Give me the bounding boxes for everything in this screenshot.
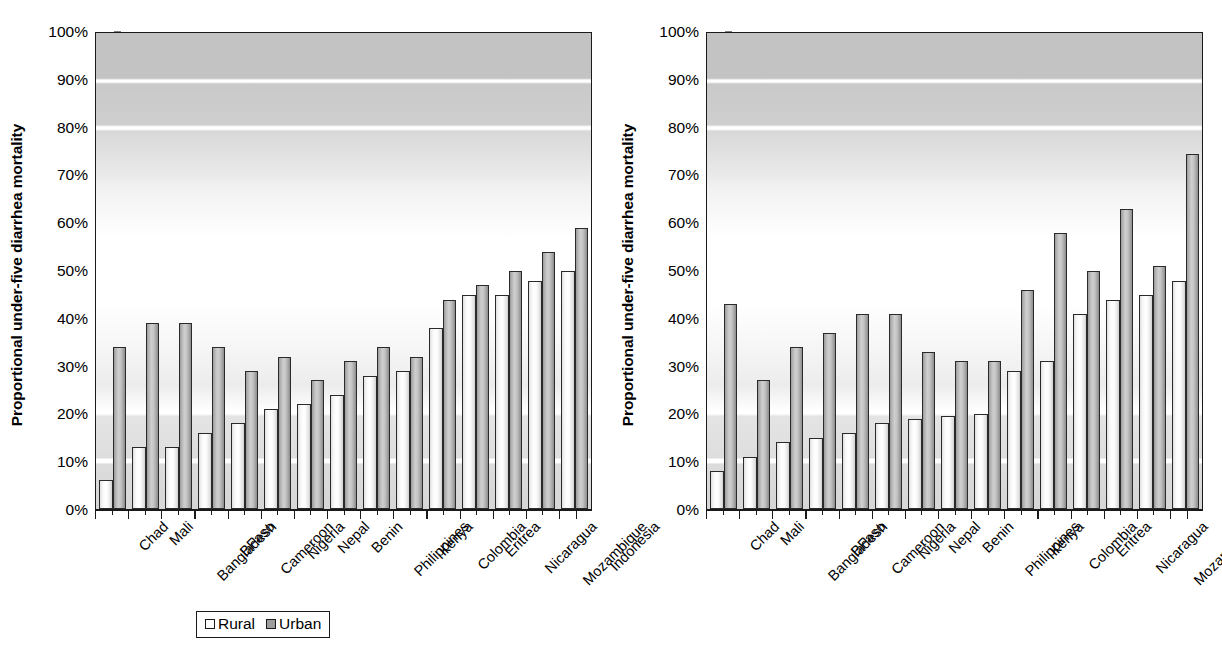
bar	[988, 361, 1002, 509]
bar	[908, 419, 922, 509]
x-axis-tick-mark	[805, 510, 838, 519]
bar-group	[195, 33, 228, 509]
x-axis-tick-mark	[1104, 510, 1137, 519]
x-axis-tick-mark	[95, 510, 128, 519]
bar	[528, 281, 542, 509]
y-axis-tick-label: 90%	[57, 72, 88, 88]
y-axis-tick-label: 80%	[668, 120, 699, 136]
bar-group	[393, 33, 426, 509]
bar	[776, 442, 790, 509]
y-axis-tick-label: 80%	[57, 120, 88, 136]
bar	[724, 304, 738, 509]
bar	[476, 285, 490, 509]
bar-group	[839, 33, 872, 509]
y-axis-tick-label: 50%	[668, 263, 699, 279]
x-axis-tick-label: Benin	[979, 519, 1015, 555]
bar	[1186, 154, 1200, 509]
y-axis-tick-label: 60%	[668, 215, 699, 231]
x-axis-tick-mark	[161, 510, 194, 519]
chart-panel-left: Proportional under-five diarrhea mortali…	[0, 0, 611, 672]
bar	[264, 409, 278, 509]
bar	[561, 271, 575, 509]
x-axis-tick-mark	[706, 510, 739, 519]
y-axis-tick-label: 60%	[57, 215, 88, 231]
y-axis-tick-label: 70%	[668, 168, 699, 184]
plot-area	[95, 32, 592, 510]
y-axis-tick-label: 70%	[57, 168, 88, 184]
bar	[809, 438, 823, 509]
bar-group	[294, 33, 327, 509]
legend-item: Urban	[266, 616, 321, 632]
x-axis-tick-mark	[228, 510, 261, 519]
plot-area	[706, 32, 1203, 510]
y-axis-tick-label: 10%	[57, 454, 88, 470]
x-axis-tick-mark	[839, 510, 872, 519]
bar-group	[492, 33, 525, 509]
bar	[1172, 281, 1186, 509]
bar-group	[1136, 33, 1169, 509]
bar-group	[1004, 33, 1037, 509]
bar	[1087, 271, 1101, 509]
x-axis-tick-mark	[393, 510, 426, 519]
bar	[330, 395, 344, 509]
x-axis-tick-mark	[1004, 510, 1037, 519]
x-axis-tick-mark	[360, 510, 393, 519]
x-axis-tick-mark	[194, 510, 227, 519]
bar	[710, 471, 724, 509]
x-axis-tick-mark	[294, 510, 327, 519]
x-axis-tick-label: BFaso	[237, 519, 277, 559]
bar	[509, 271, 523, 509]
bar	[146, 323, 160, 509]
x-axis-tick-label: Benin	[368, 519, 404, 555]
bar-group	[938, 33, 971, 509]
bar-groups	[707, 33, 1202, 509]
bar	[1007, 371, 1021, 509]
bar-group	[261, 33, 294, 509]
bar	[1073, 314, 1087, 509]
y-axis-tick-label: 40%	[668, 311, 699, 327]
y-axis-tick-label: 100%	[659, 24, 699, 40]
bar	[179, 323, 193, 509]
bar	[495, 295, 509, 509]
y-axis-tick-labels: 100%90%80%70%60%50%40%30%20%10%0%	[637, 32, 699, 510]
bar	[344, 361, 358, 509]
bar-group	[558, 33, 591, 509]
bar-group	[806, 33, 839, 509]
bar	[1021, 290, 1035, 509]
bar-group	[459, 33, 492, 509]
bar	[1153, 266, 1167, 509]
bar	[743, 457, 757, 509]
y-axis-tick-label: 30%	[668, 359, 699, 375]
bar	[410, 357, 424, 509]
bar	[1040, 361, 1054, 509]
bar	[297, 404, 311, 509]
bar-group	[327, 33, 360, 509]
y-axis-tick-label: 50%	[57, 263, 88, 279]
bar	[1106, 300, 1120, 509]
x-axis-tick-mark	[772, 510, 805, 519]
bar-group	[525, 33, 558, 509]
y-axis-tick-label: 90%	[668, 72, 699, 88]
legend-label: Rural	[218, 616, 255, 632]
bar	[875, 423, 889, 509]
y-axis-tick-label: 100%	[48, 24, 88, 40]
bar-group	[360, 33, 393, 509]
bar	[1054, 233, 1068, 509]
bar	[132, 447, 146, 509]
x-axis-tick-label: Mali	[777, 519, 806, 548]
bar	[1139, 295, 1153, 509]
bar	[231, 423, 245, 509]
y-axis-tick-label: 40%	[57, 311, 88, 327]
bar	[99, 480, 113, 509]
y-axis-tick-labels: 100%90%80%70%60%50%40%30%20%10%0%	[26, 32, 88, 510]
bar-groups	[96, 33, 591, 509]
bar	[542, 252, 556, 509]
bar	[429, 328, 443, 509]
x-axis-tick-mark	[493, 510, 526, 519]
chart-panel-right: Proportional under-five diarrhea mortali…	[611, 0, 1222, 672]
x-axis-tick-mark	[1037, 510, 1070, 519]
legend-item: Rural	[205, 616, 255, 632]
bar	[363, 376, 377, 509]
bar	[278, 357, 292, 509]
bar	[443, 300, 457, 509]
